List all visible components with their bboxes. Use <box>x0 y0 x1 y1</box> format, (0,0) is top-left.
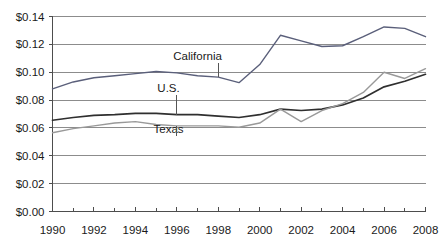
y-axis-tick-label: $0.12 <box>16 38 45 50</box>
x-axis-tick-label: 2002 <box>288 224 314 236</box>
line-chart: $0.00$0.02$0.04$0.06$0.08$0.10$0.12$0.14… <box>0 0 442 252</box>
y-axis-tick-label: $0.04 <box>16 150 45 162</box>
series-annotations: CaliforniaU.S.Texas <box>154 50 223 136</box>
y-axis-tick-label: $0.08 <box>16 94 45 106</box>
y-axis-tick-label: $0.14 <box>16 11 45 23</box>
x-axis-tick-label: 1998 <box>205 224 231 236</box>
x-axis-tick-label: 2000 <box>247 224 273 236</box>
y-axis-tick-label: $0.10 <box>16 66 45 78</box>
chart-canvas: $0.00$0.02$0.04$0.06$0.08$0.10$0.12$0.14… <box>0 0 442 252</box>
axis-tickmarks <box>49 17 426 212</box>
series-label-us: U.S. <box>157 82 179 94</box>
x-axis-tick-label: 1994 <box>123 224 149 236</box>
series-line-texas <box>53 69 426 133</box>
x-axis-tick-label: 1996 <box>164 224 190 236</box>
series-line-us <box>53 74 426 120</box>
x-axis-tick-label: 2004 <box>330 224 356 236</box>
gridlines <box>53 17 426 184</box>
series-label-california: California <box>173 50 222 62</box>
x-axis-tick-labels: 1990199219941996199820002002200420062008 <box>40 224 439 236</box>
data-series <box>53 27 426 133</box>
x-axis-tick-label: 1990 <box>40 224 66 236</box>
x-axis-tick-label: 1992 <box>81 224 107 236</box>
axes <box>53 17 426 212</box>
x-axis-tick-label: 2006 <box>371 224 397 236</box>
series-label-texas: Texas <box>154 123 184 135</box>
y-axis-tick-label: $0.00 <box>16 206 45 218</box>
y-axis-tick-label: $0.02 <box>16 178 45 190</box>
series-line-california <box>53 27 426 89</box>
y-axis-tick-labels: $0.00$0.02$0.04$0.06$0.08$0.10$0.12$0.14 <box>16 11 45 218</box>
x-axis-tick-label: 2008 <box>413 224 439 236</box>
y-axis-tick-label: $0.06 <box>16 122 45 134</box>
